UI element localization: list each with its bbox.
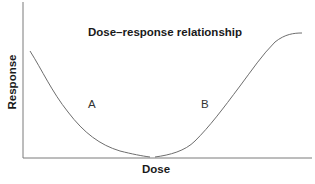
chart-title: Dose–response relationship [88, 26, 242, 38]
curve-a-label: A [88, 98, 96, 110]
x-axis-label: Dose [142, 163, 170, 175]
dose-response-chart: Dose–response relationship Response Dose… [0, 0, 315, 184]
curve-b [155, 33, 302, 157]
curve-b-label: B [201, 98, 209, 110]
y-axis-label: Response [6, 55, 18, 110]
